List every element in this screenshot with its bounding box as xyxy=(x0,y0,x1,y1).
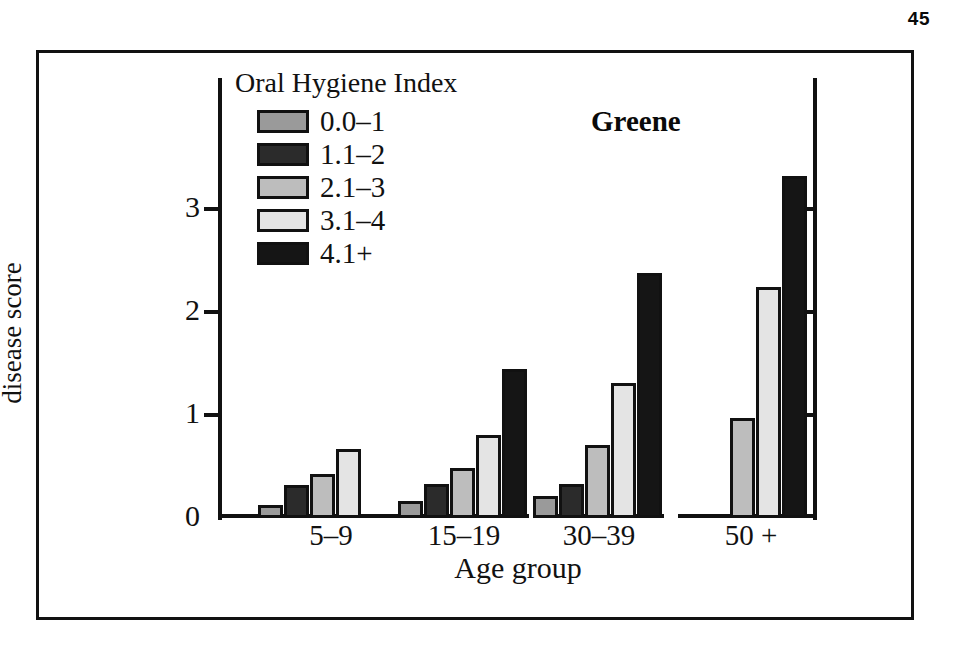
legend-item[interactable]: 0.0–1 xyxy=(257,105,457,138)
legend-swatch-icon xyxy=(257,110,309,133)
bar[interactable] xyxy=(502,369,527,518)
bar[interactable] xyxy=(398,501,423,519)
legend-swatch-icon xyxy=(257,209,309,232)
bar[interactable] xyxy=(533,496,558,518)
figure-frame: 0123 5–915–1930–3950 + Mean periodontal … xyxy=(36,50,914,620)
x-axis-tick-label: 30–39 xyxy=(563,519,636,552)
bar[interactable] xyxy=(756,287,781,518)
bar[interactable] xyxy=(730,418,755,518)
legend-item-label: 4.1+ xyxy=(320,239,373,268)
bar[interactable] xyxy=(637,273,662,518)
x-axis-tick-label: 15–19 xyxy=(428,519,501,552)
legend-item-label: 1.1–2 xyxy=(320,140,385,169)
x-axis-tick-label: 50 + xyxy=(725,519,778,552)
legend-items: 0.0–11.1–22.1–33.1–44.1+ xyxy=(257,105,457,270)
x-axis-tick-labels: 5–915–1930–3950 + xyxy=(39,519,911,555)
legend-item[interactable]: 3.1–4 xyxy=(257,204,457,237)
bar[interactable] xyxy=(476,435,501,518)
y-axis-title-line2: disease score xyxy=(0,183,27,483)
legend-item-label: 3.1–4 xyxy=(320,206,385,235)
series-label-greene: Greene xyxy=(591,105,681,138)
bar[interactable] xyxy=(559,484,584,518)
x-axis-title: Age group xyxy=(218,551,818,585)
legend-item-label: 0.0–1 xyxy=(320,107,385,136)
legend: Oral Hygiene Index 0.0–11.1–22.1–33.1–44… xyxy=(235,67,457,270)
x-axis-tick-label: 5–9 xyxy=(309,519,353,552)
bar[interactable] xyxy=(585,445,610,518)
legend-swatch-icon xyxy=(257,176,309,199)
y-axis-title: Mean periodontal disease score xyxy=(0,183,27,483)
legend-item-label: 2.1–3 xyxy=(320,173,385,202)
legend-swatch-icon xyxy=(257,143,309,166)
plot-area: 0123 5–915–1930–3950 + Mean periodontal … xyxy=(39,53,911,617)
legend-item[interactable]: 1.1–2 xyxy=(257,138,457,171)
bar[interactable] xyxy=(424,484,449,518)
bar[interactable] xyxy=(611,383,636,518)
legend-title: Oral Hygiene Index xyxy=(235,67,457,99)
bar-series-layer xyxy=(39,78,911,518)
bar[interactable] xyxy=(258,505,283,518)
legend-item[interactable]: 4.1+ xyxy=(257,237,457,270)
page-number: 45 xyxy=(908,8,930,30)
bar[interactable] xyxy=(336,449,361,518)
legend-swatch-icon xyxy=(257,242,309,265)
legend-item[interactable]: 2.1–3 xyxy=(257,171,457,204)
bar[interactable] xyxy=(310,474,335,518)
figure-page: 45 0123 5–915–1930–3950 + Mean periodont… xyxy=(0,0,954,655)
bar[interactable] xyxy=(782,176,807,518)
bar[interactable] xyxy=(284,485,309,518)
bar[interactable] xyxy=(450,468,475,518)
